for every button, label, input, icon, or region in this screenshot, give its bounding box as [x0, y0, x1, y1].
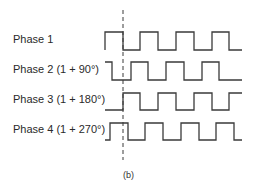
phase-timing-diagram: Phase 1 Phase 2 (1 + 90°) Phase 3 (1 + 1… [0, 0, 257, 192]
figure-caption: (b) [0, 170, 257, 180]
phase-3-waveform [105, 93, 242, 110]
phase-1-waveform [105, 32, 242, 50]
phase-4-waveform [105, 123, 242, 140]
phase-2-waveform [105, 62, 242, 80]
waveforms [0, 0, 257, 192]
